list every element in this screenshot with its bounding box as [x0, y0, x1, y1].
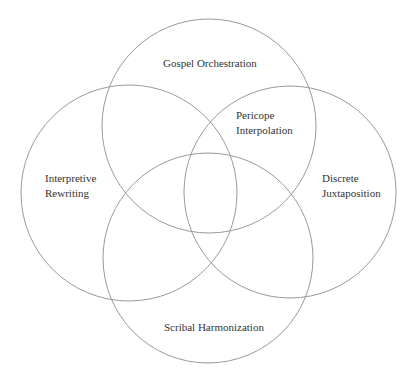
venn-diagram: Gospel Orchestration Pericope Interpolat…: [0, 0, 414, 382]
label-scribal-harmonization: Scribal Harmonization: [164, 321, 264, 333]
label-pericope-interpolation-line1: Pericope: [236, 109, 275, 121]
label-discrete-juxtaposition-line2: Juxtaposition: [322, 187, 381, 199]
label-discrete-juxtaposition-line1: Discrete: [322, 172, 359, 184]
label-gospel-orchestration: Gospel Orchestration: [163, 57, 257, 69]
label-pericope-interpolation-line2: Interpolation: [236, 124, 293, 136]
label-interpretive-rewriting-line1: Interpretive: [45, 172, 96, 184]
label-interpretive-rewriting-line2: Rewriting: [45, 187, 89, 199]
